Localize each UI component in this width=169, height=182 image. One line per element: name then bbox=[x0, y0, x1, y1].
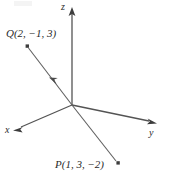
vector-q-line bbox=[29, 48, 73, 105]
y-axis-line bbox=[72, 105, 149, 121]
coordinate-axes-figure: z y x Q(2, −1, 3) P(1, 3, −2) bbox=[0, 0, 169, 182]
z-axis-label: z bbox=[61, 2, 65, 12]
x-axis-line bbox=[21, 105, 72, 127]
point-p-label: P(1, 3, −2) bbox=[55, 159, 104, 170]
x-axis-label: x bbox=[5, 125, 9, 135]
x-axis-arrowhead bbox=[13, 127, 23, 133]
vector-to-q bbox=[26, 44, 72, 105]
y-axis-label: y bbox=[149, 128, 153, 138]
point-q-marker bbox=[26, 44, 29, 47]
point-q-label: Q(2, −1, 3) bbox=[6, 28, 56, 39]
z-axis bbox=[69, 7, 76, 105]
x-axis bbox=[13, 105, 72, 133]
vector-q-midpoint-arrowhead bbox=[49, 78, 58, 85]
point-p-marker bbox=[116, 161, 119, 164]
